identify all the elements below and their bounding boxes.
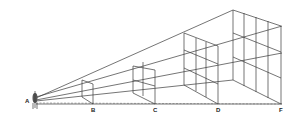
label-a: A: [25, 98, 30, 104]
label-c: C: [153, 107, 158, 113]
sight-line-top-far: [36, 10, 233, 98]
perspective-diagram: A B C D F: [0, 0, 296, 121]
label-f: F: [279, 107, 283, 113]
sight-line-mid: [36, 53, 282, 100]
sight-line-low: [36, 80, 233, 101]
frame-f: [233, 10, 281, 104]
label-b: B: [91, 107, 96, 113]
viewer-figure-icon: [33, 91, 38, 109]
label-d: D: [216, 107, 221, 113]
